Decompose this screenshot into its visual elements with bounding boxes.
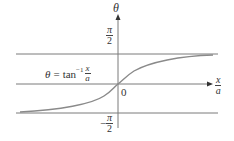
function-superscript: −1 xyxy=(76,66,83,74)
function-name: tan xyxy=(63,68,76,80)
function-label: θ = tan −1 x a xyxy=(45,64,91,83)
upper-asymptote-label: π 2 xyxy=(106,25,113,46)
function-equals: = xyxy=(53,68,59,80)
lower-asymptote-label: π 2 xyxy=(106,113,113,134)
x-axis-arrow-icon xyxy=(207,82,213,87)
lower-asymptote-denominator: 2 xyxy=(107,124,112,134)
origin-label: 0 xyxy=(121,87,127,98)
function-lhs: θ xyxy=(45,68,50,80)
upper-asymptote-denominator: 2 xyxy=(107,36,112,46)
x-axis-label: x a xyxy=(215,75,221,96)
function-arg-denominator: a xyxy=(85,74,90,83)
arctan-graph xyxy=(0,0,234,141)
y-axis-label: θ xyxy=(113,2,119,14)
function-argument: x a xyxy=(85,64,91,83)
x-axis-label-denominator: a xyxy=(216,86,221,96)
